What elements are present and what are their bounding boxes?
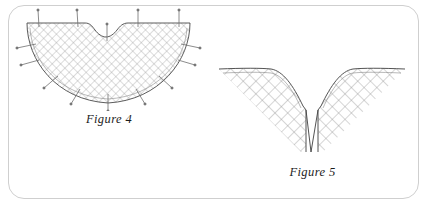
figure-panel-page: Figure 4 <box>0 0 430 209</box>
figure-5-center-slit <box>306 110 318 152</box>
figure-5-illustration <box>205 55 420 167</box>
figure-5-block: Figure 5 <box>205 55 420 195</box>
pin <box>178 60 196 66</box>
figure-4-block: Figure 4 <box>14 8 204 133</box>
figure-4-illustration <box>14 8 204 111</box>
figure-5-caption: Figure 5 <box>205 165 420 180</box>
figure-4-mesh-fill <box>14 8 204 111</box>
pin <box>20 60 39 66</box>
figure-4-caption: Figure 4 <box>14 112 204 127</box>
